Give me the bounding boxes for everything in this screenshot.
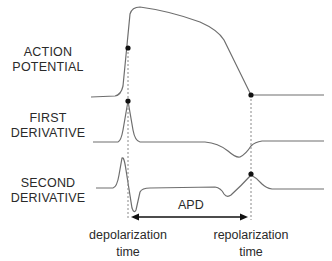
label-line: time [73,244,183,261]
label-line: repolarization [196,227,306,244]
label-line: DERIVATIVE [0,126,96,141]
first-derivative-peak-dot [125,98,130,103]
second-derivative-label: SECOND DERIVATIVE [0,176,96,206]
ap-repolarization-dot [248,92,253,97]
depolarization-time-label: depolarization time [73,227,183,261]
action-potential-label: ACTION POTENTIAL [0,45,96,75]
repolarization-time-label: repolarization time [196,227,306,261]
second-derivative-trace [96,158,324,212]
ap-depolarization-dot [125,45,130,50]
action-potential-trace [91,7,324,97]
apd-arrow-left-head [131,214,139,221]
label-line: DERIVATIVE [0,191,96,206]
second-derivative-peak-dot [248,171,253,176]
apd-arrow-right-head [240,214,248,221]
label-line: time [196,244,306,261]
label-line: FIRST [0,111,96,126]
apd-label: APD [178,198,204,212]
label-line: ACTION [0,45,96,60]
label-line: SECOND [0,176,96,191]
label-line: depolarization [73,227,183,244]
first-derivative-label: FIRST DERIVATIVE [0,111,96,141]
label-line: POTENTIAL [0,60,96,75]
